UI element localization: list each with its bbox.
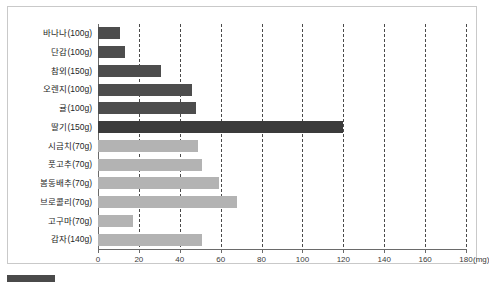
x-tick-label-140: 140 (378, 255, 391, 264)
x-tick-label-120: 120 (337, 255, 350, 264)
y-axis-label: 참외(150g) (51, 62, 92, 81)
bar-row: 귤(100g) (98, 99, 468, 118)
x-tick-100 (302, 249, 303, 253)
bar-row: 봄동배추(70g) (98, 174, 468, 193)
bar (98, 234, 202, 246)
x-tick-label-0: 0 (96, 255, 100, 264)
bar (98, 177, 219, 189)
x-tick-120 (343, 249, 344, 253)
x-tick-label-100: 100 (296, 255, 309, 264)
y-axis-label: 시금치(70g) (48, 137, 92, 156)
y-axis-label: 딸기(150g) (51, 118, 92, 137)
y-axis-label: 바나나(100g) (43, 24, 92, 43)
bar-row: 감자(140g) (98, 230, 468, 249)
bar-row: 딸기(150g) (98, 118, 468, 137)
bar-row: 단감(100g) (98, 43, 468, 62)
caption-swatch (7, 275, 55, 282)
y-axis-label: 단감(100g) (51, 43, 92, 62)
y-axis-label: 봄동배추(70g) (40, 174, 92, 193)
x-axis-unit-label: (mg) (473, 255, 489, 264)
bar-row: 바나나(100g) (98, 24, 468, 43)
bar (98, 159, 202, 171)
x-tick-180 (466, 249, 467, 253)
y-axis-label: 풋고추(70g) (48, 155, 92, 174)
x-tick-label-160: 160 (418, 255, 431, 264)
y-axis-label: 오렌지(100g) (43, 80, 92, 99)
x-tick-label-60: 60 (216, 255, 225, 264)
x-tick-label-40: 40 (175, 255, 184, 264)
x-axis-line (98, 249, 466, 250)
y-axis-label: 감자(140g) (51, 230, 92, 249)
x-tick-80 (262, 249, 263, 253)
x-tick-label-180: 180 (459, 255, 472, 264)
bar-row: 오렌지(100g) (98, 80, 468, 99)
bars-group: 바나나(100g)단감(100g)참외(150g)오렌지(100g)귤(100g… (98, 24, 468, 249)
x-tick-label-20: 20 (134, 255, 143, 264)
x-tick-60 (221, 249, 222, 253)
bar (98, 140, 198, 152)
x-tick-0 (98, 249, 99, 253)
bar (98, 196, 237, 208)
x-tick-160 (425, 249, 426, 253)
bar (98, 84, 192, 96)
bar-row: 풋고추(70g) (98, 155, 468, 174)
y-axis-label: 브로콜리(70g) (40, 193, 92, 212)
bar-row: 브로콜리(70g) (98, 193, 468, 212)
bar (98, 121, 343, 133)
plot-area: 020406080100120140160180(mg) 바나나(100g)단감… (98, 24, 468, 256)
bar (98, 27, 120, 39)
figure-caption (7, 272, 477, 285)
bar (98, 102, 196, 114)
bar (98, 65, 161, 77)
bar-row: 시금치(70g) (98, 137, 468, 156)
x-tick-label-80: 80 (257, 255, 266, 264)
bar-row: 고구마(70g) (98, 212, 468, 231)
x-tick-20 (139, 249, 140, 253)
bar (98, 46, 125, 58)
x-tick-140 (384, 249, 385, 253)
bar (98, 215, 133, 227)
bar-row: 참외(150g) (98, 62, 468, 81)
chart-panel: 020406080100120140160180(mg) 바나나(100g)단감… (7, 6, 477, 264)
y-axis-label: 고구마(70g) (48, 212, 92, 231)
x-tick-40 (180, 249, 181, 253)
y-axis-label: 귤(100g) (59, 99, 92, 118)
